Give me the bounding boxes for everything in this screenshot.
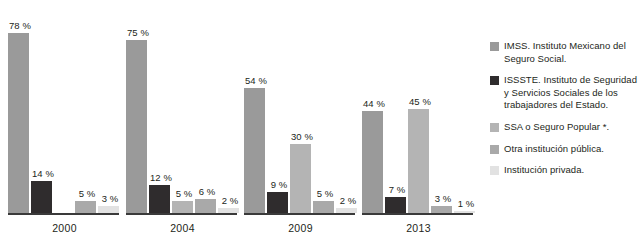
bars-row: 78 %14 %5 %3 % <box>8 28 121 213</box>
bar[interactable] <box>408 109 429 213</box>
legend-swatch-icon <box>490 42 499 51</box>
legend-item-0[interactable]: IMSS. Instituto Mexicano del Seguro Soci… <box>490 40 643 65</box>
bars-row: 44 %7 %45 %3 %1 % <box>362 28 475 213</box>
axis-baseline <box>362 213 473 215</box>
bar-slot: 45 % <box>408 28 429 213</box>
bar-slot: 5 % <box>75 28 96 213</box>
axis-tick-label-2009: 2009 <box>244 222 357 234</box>
bar-slot: 2 % <box>218 28 239 213</box>
bar-slot: 5 % <box>172 28 193 213</box>
legend-item-1[interactable]: ISSSTE. Instituto de Seguridad y Servici… <box>490 74 643 112</box>
bar-slot: 6 % <box>195 28 216 213</box>
bars-row: 54 %9 %30 %5 %2 % <box>244 28 357 213</box>
bar[interactable] <box>195 199 216 213</box>
bar-slot: 75 % <box>126 28 147 213</box>
bar-slot: 12 % <box>149 28 170 213</box>
legend-label: ISSSTE. Instituto de Seguridad y Servici… <box>504 74 643 112</box>
plot-area: 78 %14 %5 %3 %200075 %12 %5 %6 %2 %20045… <box>0 0 480 248</box>
bar[interactable] <box>431 206 452 213</box>
legend-swatch-icon <box>490 166 499 175</box>
legend-label: Otra institución pública. <box>504 143 604 156</box>
bars-row: 75 %12 %5 %6 %2 % <box>126 28 239 213</box>
chart-legend: IMSS. Instituto Mexicano del Seguro Soci… <box>490 40 643 186</box>
bar[interactable] <box>75 201 96 213</box>
bar-slot: 54 % <box>244 28 265 213</box>
bar-slot: 2 % <box>336 28 357 213</box>
bar-slot: 9 % <box>267 28 288 213</box>
bar[interactable] <box>313 201 334 213</box>
legend-item-2[interactable]: SSA o Seguro Popular *. <box>490 121 643 134</box>
bar[interactable] <box>385 197 406 213</box>
bar[interactable] <box>126 40 147 213</box>
bar-slot: 30 % <box>290 28 311 213</box>
legend-label: IMSS. Instituto Mexicano del Seguro Soci… <box>504 40 643 65</box>
bar-slot: 78 % <box>8 28 29 213</box>
bar-slot: 5 % <box>313 28 334 213</box>
bar[interactable] <box>31 181 52 213</box>
axis-tick-label-2000: 2000 <box>8 222 121 234</box>
axis-baseline <box>8 213 119 215</box>
bar[interactable] <box>98 206 119 213</box>
axis-baseline <box>126 213 237 215</box>
bar-slot: 44 % <box>362 28 383 213</box>
bar-slot: 14 % <box>31 28 52 213</box>
bar-slot: 7 % <box>385 28 406 213</box>
bar[interactable] <box>8 33 29 213</box>
bar-group-2013: 44 %7 %45 %3 %1 %2013 <box>362 0 475 248</box>
bar-group-2004: 75 %12 %5 %6 %2 %2004 <box>126 0 239 248</box>
bar-slot: 3 % <box>98 28 119 213</box>
bar-slot <box>54 28 73 213</box>
bar[interactable] <box>172 201 193 213</box>
legend-label: Institución privada. <box>504 164 584 177</box>
legend-item-4[interactable]: Institución privada. <box>490 164 643 177</box>
bar-chart: 78 %14 %5 %3 %200075 %12 %5 %6 %2 %20045… <box>0 0 643 248</box>
legend-label: SSA o Seguro Popular *. <box>504 121 609 134</box>
bar-group-2000: 78 %14 %5 %3 %2000 <box>8 0 121 248</box>
bar[interactable] <box>244 88 265 213</box>
bar[interactable] <box>290 144 311 213</box>
bar-slot: 3 % <box>431 28 452 213</box>
axis-tick-label-2004: 2004 <box>126 222 239 234</box>
legend-swatch-icon <box>490 76 499 85</box>
bar[interactable] <box>149 185 170 213</box>
bar-group-2009: 54 %9 %30 %5 %2 %2009 <box>244 0 357 248</box>
legend-swatch-icon <box>490 145 499 154</box>
bar-slot: 1 % <box>454 28 475 213</box>
legend-swatch-icon <box>490 123 499 132</box>
bar[interactable] <box>267 192 288 213</box>
axis-tick-label-2013: 2013 <box>362 222 475 234</box>
axis-baseline <box>244 213 355 215</box>
bar[interactable] <box>362 111 383 213</box>
legend-item-3[interactable]: Otra institución pública. <box>490 143 643 156</box>
